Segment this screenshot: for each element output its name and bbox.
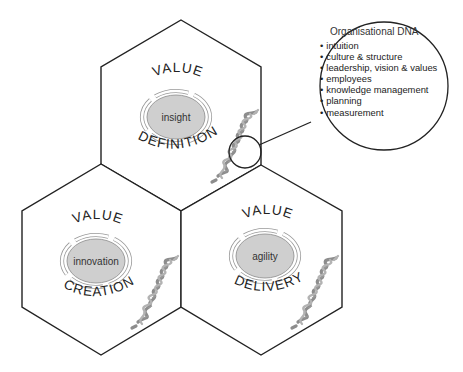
dna-item-list: intuition culture & structure leadership…	[320, 40, 463, 118]
list-item: measurement	[320, 107, 463, 118]
callout-connector-line	[259, 122, 311, 145]
list-item: leadership, vision & values	[320, 62, 463, 73]
core-label: insight	[162, 112, 191, 123]
organisational-dna-panel: Organisational DNA intuition culture & s…	[320, 26, 463, 118]
list-item: knowledge management	[320, 84, 463, 95]
list-item: intuition	[320, 40, 463, 51]
core-label: agility	[252, 251, 278, 262]
core-label: innovation	[73, 256, 119, 267]
list-item: culture & structure	[320, 51, 463, 62]
list-item: planning	[320, 95, 463, 106]
list-item: employees	[320, 73, 463, 84]
callout-title: Organisational DNA	[330, 26, 463, 37]
